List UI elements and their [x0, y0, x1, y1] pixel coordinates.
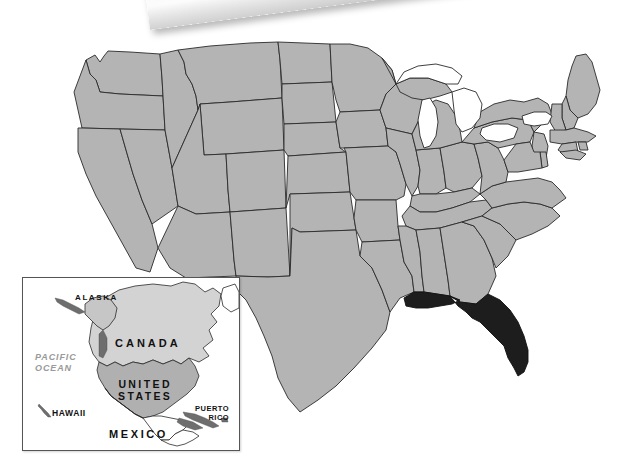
inset-label-pacific-ocean: PACIFIC OCEAN [35, 352, 77, 373]
inset-region-greenland [221, 284, 239, 312]
state-new-mexico [230, 208, 290, 277]
inset-locator-map: ALASKA CANADA PACIFIC OCEAN UNITED STATE… [22, 277, 240, 451]
state-south-dakota [282, 82, 336, 124]
state-maine [566, 54, 600, 118]
state-wyoming [200, 98, 284, 155]
inset-label-united-states: UNITED STATES [118, 378, 172, 403]
state-rhode-island [578, 142, 588, 150]
map-canvas: ALASKA CANADA PACIFIC OCEAN UNITED STATE… [0, 0, 640, 466]
state-north-dakota [278, 42, 332, 84]
state-arizona [158, 206, 236, 278]
inset-label-puerto-rico: PUERTO RICO [195, 405, 229, 423]
state-arkansas [354, 200, 400, 242]
inset-hawaii-islands [38, 404, 51, 417]
lake-ontario [522, 112, 552, 126]
state-florida-highlighted [404, 292, 528, 376]
inset-label-alaska: ALASKA [75, 293, 118, 302]
inset-label-mexico: MEXICO [109, 428, 168, 441]
state-iowa [336, 110, 388, 148]
inset-label-canada: CANADA [115, 337, 181, 350]
state-colorado [226, 150, 286, 212]
state-massachusetts [550, 128, 596, 144]
state-long-island [560, 150, 586, 160]
inset-label-hawaii: HAWAII [52, 408, 86, 418]
